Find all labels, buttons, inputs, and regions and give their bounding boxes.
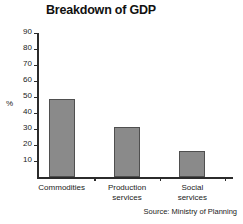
y-tick-label: 80 xyxy=(23,43,32,52)
x-axis-category-line: services xyxy=(92,193,162,203)
chart-title: Breakdown of GDP xyxy=(46,3,156,17)
x-axis-category-line: services xyxy=(157,193,227,203)
x-axis-category-line: Production xyxy=(92,183,162,193)
y-tick-mark xyxy=(34,129,38,130)
bar xyxy=(49,99,75,177)
x-tick-mark xyxy=(160,177,161,181)
x-axis-category-label: Socialservices xyxy=(157,183,227,202)
y-tick-mark xyxy=(34,97,38,98)
y-tick-mark xyxy=(34,33,38,34)
bar xyxy=(179,151,205,177)
y-tick-label: 40 xyxy=(23,107,32,116)
y-tick-label: 30 xyxy=(23,123,32,132)
x-axis-category-label: Productionservices xyxy=(92,183,162,202)
y-tick-label: 60 xyxy=(23,75,32,84)
x-axis-category-line: Social xyxy=(157,183,227,193)
y-axis-spine xyxy=(37,33,39,177)
x-tick-mark xyxy=(225,177,226,181)
y-tick-mark xyxy=(34,113,38,114)
y-tick-mark xyxy=(34,49,38,50)
y-tick-label: 50 xyxy=(23,91,32,100)
y-tick-mark xyxy=(34,65,38,66)
plot-area: 102030405060708090 CommoditiesProduction… xyxy=(37,33,233,177)
x-axis-category-line: Commodities xyxy=(27,183,97,193)
y-tick-mark xyxy=(34,145,38,146)
bar xyxy=(114,127,140,177)
y-axis-label: % xyxy=(6,99,13,108)
y-tick-label: 90 xyxy=(23,27,32,36)
y-tick-mark xyxy=(34,161,38,162)
y-tick-mark xyxy=(34,81,38,82)
x-tick-mark xyxy=(94,177,95,181)
y-tick-label: 20 xyxy=(23,139,32,148)
x-axis-spine xyxy=(37,177,233,179)
chart-figure: Breakdown of GDP % 102030405060708090 Co… xyxy=(0,0,243,224)
source-note: Source: Ministry of Planning xyxy=(144,207,237,216)
y-tick-label: 10 xyxy=(23,155,32,164)
y-tick-label: 70 xyxy=(23,59,32,68)
x-axis-category-label: Commodities xyxy=(27,183,97,193)
